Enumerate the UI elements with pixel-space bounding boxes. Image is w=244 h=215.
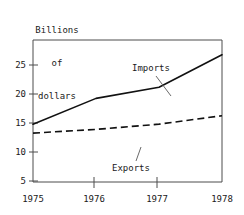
y-axis-title: Billions of dollars bbox=[14, 3, 100, 124]
y-tick-label-20: 20 bbox=[2, 90, 26, 99]
y-axis-title-line-3: dollars bbox=[14, 91, 100, 102]
exports-leader-line bbox=[136, 147, 141, 161]
x-tick-label-1978: 1978 bbox=[202, 195, 242, 204]
chart-container: Billions of dollars 25 20 15 10 5 1975 1… bbox=[0, 0, 244, 215]
y-tick-label-15: 15 bbox=[2, 119, 26, 128]
series-label-exports: Exports bbox=[112, 164, 150, 173]
series-label-imports: Imports bbox=[132, 64, 170, 73]
x-tick-label-1975: 1975 bbox=[13, 195, 53, 204]
y-tick-label-25: 25 bbox=[2, 61, 26, 70]
y-axis-title-line-2: of bbox=[14, 58, 100, 69]
y-tick-label-5: 5 bbox=[2, 177, 26, 186]
imports-leader-line bbox=[156, 76, 171, 96]
y-tick-label-10: 10 bbox=[2, 148, 26, 157]
x-tick-label-1977: 1977 bbox=[137, 195, 177, 204]
y-axis-title-line-1: Billions bbox=[14, 25, 100, 36]
x-tick-label-1976: 1976 bbox=[74, 195, 114, 204]
